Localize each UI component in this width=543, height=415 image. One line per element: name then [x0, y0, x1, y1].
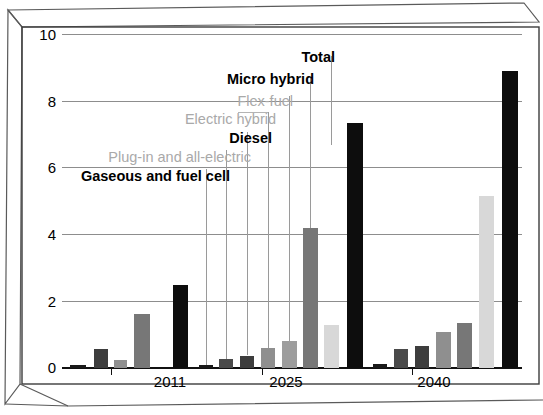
bar-2025-flex-fuel-light [324, 325, 339, 368]
callout-plug-in-and-all-electric: Plug-in and all-electric [108, 150, 251, 165]
leader-flex-fuel [289, 96, 290, 345]
bar-2011-electric-hybrid [114, 360, 127, 368]
leader-electric-hybrid [268, 112, 269, 348]
y-tick-2: 2 [48, 294, 56, 309]
bar-2040-electric-hybrid [436, 332, 451, 368]
x-label-2025: 2025 [269, 374, 302, 389]
callout-flex-fuel: Flex-fuel [237, 94, 293, 109]
callout-electric-hybrid: Electric hybrid [185, 112, 276, 127]
bar-2040-flex-fuel [457, 323, 472, 368]
callout-total: Total [301, 50, 335, 65]
y-tick-0: 0 [48, 360, 56, 375]
y-tick-6: 6 [48, 160, 56, 175]
bar-2040-micro-hybrid [479, 196, 494, 368]
bar-2040-plug-in-and-all-electric [394, 349, 408, 368]
frame-bottom-ledge [5, 400, 543, 406]
y-tick-10: 10 [39, 27, 56, 42]
callout-diesel: Diesel [229, 131, 272, 146]
x-label-2040: 2040 [417, 374, 450, 389]
bar-2025-plug-in-and-all-electric [219, 359, 233, 368]
bar-2025-total [347, 123, 363, 368]
leader-total [331, 56, 332, 145]
bar-2011-gaseous-and-fuel-cell [70, 365, 86, 368]
group-tick-2011 [111, 368, 112, 375]
gridline-10 [62, 34, 522, 35]
bar-2025-electric-hybrid [261, 348, 275, 368]
bar-2011-diesel [94, 349, 108, 368]
frame-top-face [8, 3, 539, 27]
chart-screenshot: 10 8 6 4 2 0 [0, 0, 543, 415]
bar-2011-micro-hybrid [134, 314, 150, 368]
callout-micro-hybrid: Micro hybrid [227, 72, 314, 87]
group-tick-2025 [262, 368, 263, 375]
frame-bottom-left-bevel [20, 384, 68, 406]
y-axis-labels: 10 8 6 4 2 0 [20, 34, 56, 368]
bar-2040-total [502, 71, 518, 368]
group-tick-2040 [412, 368, 413, 375]
bar-2025-micro-hybrid [303, 228, 318, 368]
gridline-2 [62, 301, 522, 302]
bar-2040-diesel [415, 346, 429, 368]
x-label-2011: 2011 [154, 374, 186, 389]
y-tick-8: 8 [48, 94, 56, 109]
bar-2025-flex-fuel [282, 341, 297, 368]
leader-gaseous-fuel-cell [206, 169, 207, 365]
leader-micro-hybrid [310, 78, 311, 235]
bar-2011-total [173, 285, 188, 368]
bar-2025-gaseous-and-fuel-cell [199, 365, 213, 368]
callout-gaseous-and-fuel-cell: Gaseous and fuel cell [81, 169, 230, 184]
y-tick-4: 4 [48, 227, 56, 242]
gridline-4 [62, 234, 522, 235]
leader-diesel [247, 132, 248, 355]
bar-2025-diesel [240, 356, 254, 368]
bar-2040-gaseous-and-fuel-cell [373, 364, 387, 368]
